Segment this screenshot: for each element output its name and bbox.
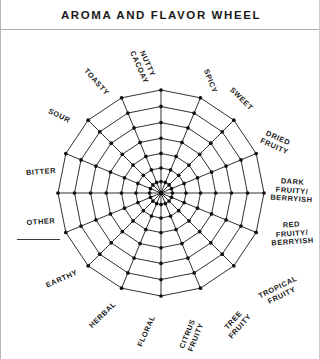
wheel-node [131,219,135,223]
wheel-node [159,136,163,140]
wheel-node [120,152,124,156]
wheel-area: SPICYSWEETDRIEDFRUITYDARKFRUITY/BERRYISH… [1,30,320,359]
wheel-node [186,256,190,260]
wheel-center [159,191,164,196]
wheel-node [209,241,213,245]
wheel-node [198,230,202,234]
wheel-node [56,191,60,195]
wheel-node [192,271,196,275]
wheel-node [239,158,243,162]
wheel-node [180,141,184,145]
wheel-node [141,173,145,177]
wheel-node [94,164,98,168]
wheel-node [254,152,258,156]
wheel-node [64,231,68,235]
wheel-node [182,201,186,205]
wheel-node [232,118,236,122]
wheel-node [98,252,102,256]
wheel-node [186,126,190,130]
wheel-node [187,219,191,223]
wheel-node [224,218,228,222]
wheel-node [184,191,188,195]
wheel-node [104,191,108,195]
wheel-node [159,180,163,184]
wheel-node [196,206,200,210]
wheel-label-red-fruity: REDFRUITY/BERRYISH [264,219,320,248]
wheel-node [167,199,171,203]
wheel-node [192,111,196,115]
wheel-node [149,187,153,191]
wheel-node [123,176,127,180]
wheel-node [141,209,145,213]
wheel-node [171,191,175,195]
wheel-node [136,201,140,205]
wheel-node [151,183,155,187]
wheel-node [159,294,163,298]
wheel-node [120,286,124,290]
wheel-node [64,152,68,156]
wheel-node [73,191,77,195]
wheel-node [120,191,124,195]
wheel-node [220,130,224,134]
wheel-node [159,278,163,282]
wheel-node [94,218,98,222]
wheel-node [109,141,113,145]
wheel-node [187,163,191,167]
wheel-node [144,228,148,232]
wheel-node [159,231,163,235]
wheel-node [246,191,250,195]
wheel-node [159,166,163,170]
wheel-node [199,191,203,195]
wheel-node [151,199,155,203]
wheel-node [230,191,234,195]
wheel-node [155,202,159,206]
wheel-node [131,163,135,167]
wheel-node [148,191,152,195]
wheel-node [169,214,173,218]
wheel-node [98,130,102,134]
wheel-node [199,286,203,290]
wheel-node [232,264,236,268]
wheel-node [164,181,168,185]
title-bar: AROMA AND FLAVOR WHEEL [1,0,320,30]
wheel-node [155,181,159,185]
wheel-node [167,183,171,187]
wheel-node [164,202,168,206]
wheel-node [196,176,200,180]
wheel-node [149,196,153,200]
page-title: AROMA AND FLAVOR WHEEL [61,9,261,21]
wheel-node [126,271,130,275]
wheel-node [150,214,154,218]
wheel-node [109,212,113,216]
wheel-node [220,252,224,256]
wheel-node [159,203,163,207]
wheel-node [210,170,214,174]
wheel-node [120,230,124,234]
wheel-node [210,212,214,216]
wheel-node [138,141,142,145]
wheel-node [198,152,202,156]
wheel-node [199,96,203,100]
wheel-node [134,191,138,195]
wheel-node [170,196,174,200]
wheel-node [120,96,124,100]
wheel-node [126,111,130,115]
wheel-node [170,187,174,191]
wheel-node [86,118,90,122]
wheel-node [159,88,163,92]
wheel-node [214,191,218,195]
wheel-node [209,141,213,145]
wheel-node [174,228,178,232]
wheel-node [86,264,90,268]
wheel-label-dark-fruity: DARKFRUITY/BERRYISH [264,176,320,205]
wheel-node [182,182,186,186]
wheel-node [138,242,142,246]
wheel-node [174,155,178,159]
wheel-node [254,231,258,235]
flavor-wheel-page: AROMA AND FLAVOR WHEEL SPICYSWEETDRIEDFR… [0,0,320,359]
wheel-node [159,121,163,125]
wheel-node [159,152,163,156]
wheel-node [150,168,154,172]
wheel-node [79,224,83,228]
wheel-node [159,216,163,220]
